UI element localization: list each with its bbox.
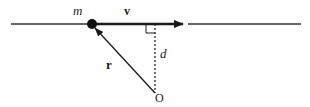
position-vector: [95, 28, 155, 93]
angular-momentum-diagram: m v d r O: [0, 0, 310, 107]
position-label: r: [106, 57, 112, 72]
distance-label: d: [160, 46, 167, 61]
point-mass: [87, 19, 97, 29]
mass-label: m: [73, 3, 82, 18]
velocity-label: v: [124, 4, 130, 18]
origin-label: O: [155, 91, 164, 105]
right-angle-marker: [146, 24, 155, 33]
